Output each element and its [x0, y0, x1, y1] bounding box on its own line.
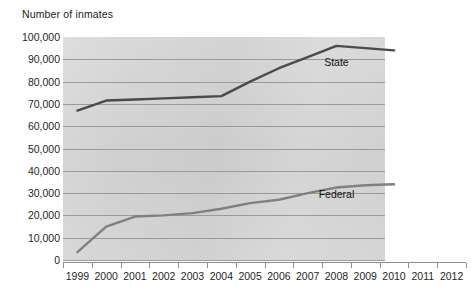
series-label-federal: Federal [319, 188, 355, 200]
series-lines [0, 0, 473, 297]
series-label-state: State [324, 56, 349, 68]
chart-container: Number of inmates 100,00090,00080,00070,… [0, 0, 473, 297]
